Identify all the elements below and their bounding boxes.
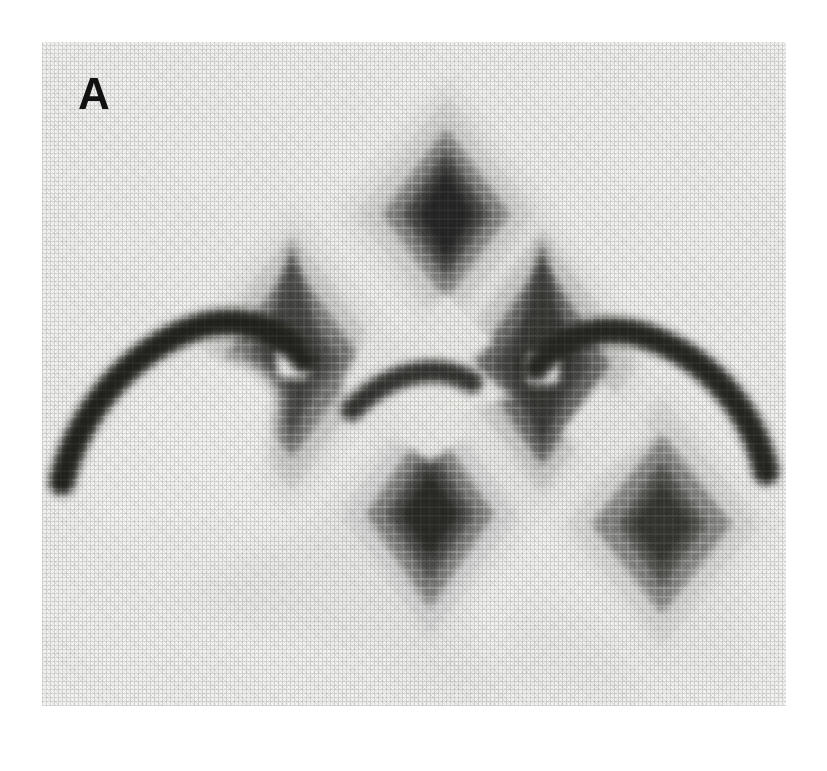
- specimen-plate: [42, 42, 786, 706]
- stitch-texture-overlay: [42, 42, 786, 706]
- panel-label-a: A: [78, 72, 110, 116]
- figure-panel: A: [0, 0, 827, 771]
